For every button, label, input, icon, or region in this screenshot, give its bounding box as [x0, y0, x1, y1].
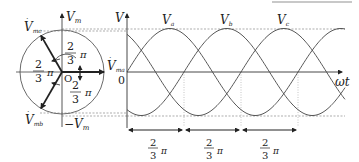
label-vb: Vb: [220, 13, 233, 27]
label-vm-top: Vm: [66, 10, 82, 25]
label-wt-axis: ωt: [335, 75, 350, 89]
interval-label-2: 2 3 π: [204, 137, 224, 161]
svg-text:π: π: [84, 87, 92, 98]
svg-text:2: 2: [262, 137, 268, 148]
waveform-plot: Va Vb Vc V ωt 0 2 3 π 2 3 π 2 3 π: [115, 11, 350, 161]
dot-vmb: ·: [27, 107, 30, 116]
angle-label-left: 2 3 π: [33, 58, 54, 85]
interval-label-1: 2 3 π: [148, 137, 168, 161]
svg-text:2: 2: [72, 79, 79, 92]
svg-text:3: 3: [67, 54, 74, 67]
label-neg-vm: −Vm: [64, 117, 90, 132]
svg-text:3: 3: [72, 93, 79, 106]
svg-text:π: π: [46, 67, 54, 78]
three-phase-diagram: Vm −Vm O Vma · Vmc · Vmb · 2 3 π 2 3 π 2…: [0, 0, 359, 162]
svg-text:2: 2: [35, 58, 42, 71]
svg-text:3: 3: [35, 72, 42, 85]
angle-label-lower: 2 3 π: [70, 79, 92, 106]
svg-text:π: π: [160, 146, 168, 156]
phasor-diagram: Vm −Vm O Vma · Vmc · Vmb · 2 3 π 2 3 π 2…: [16, 10, 127, 132]
svg-text:π: π: [272, 146, 280, 156]
svg-text:3: 3: [206, 150, 212, 161]
svg-text:π: π: [79, 49, 87, 60]
label-va: Va: [162, 13, 175, 27]
svg-text:2: 2: [206, 137, 212, 148]
diagram-canvas: Vm −Vm O Vma · Vmc · Vmb · 2 3 π 2 3 π 2…: [0, 0, 359, 162]
svg-text:2: 2: [150, 137, 156, 148]
svg-text:π: π: [216, 146, 224, 156]
angle-label-upper: 2 3 π: [65, 40, 87, 67]
label-origin-zero: 0: [118, 74, 125, 87]
interval-label-3: 2 3 π: [260, 137, 280, 161]
dot-vma: ·: [109, 53, 112, 62]
label-vc: Vc: [277, 13, 290, 27]
dot-vmc: ·: [26, 14, 29, 23]
svg-text:3: 3: [150, 150, 156, 161]
decorative-bar: [272, 1, 352, 3]
label-origin-o: O: [64, 73, 72, 84]
label-v-axis: V: [115, 11, 125, 25]
svg-text:3: 3: [262, 150, 268, 161]
svg-text:2: 2: [67, 40, 74, 53]
